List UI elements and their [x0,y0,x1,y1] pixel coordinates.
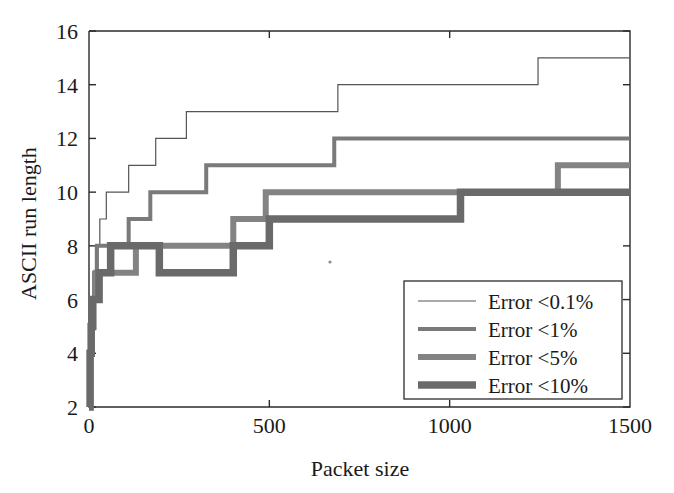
legend: Error <0.1%Error <1%Error <5%Error <10% [404,281,622,399]
x-tick-label: 1500 [608,413,652,438]
y-tick-label: 6 [67,288,78,313]
stray-speckle [328,260,331,263]
x-tick-label: 1000 [428,413,472,438]
y-tick-label: 4 [67,341,78,366]
y-tick-label: 2 [67,395,78,420]
y-tick-label: 14 [56,73,78,98]
legend-label: Error <1% [488,318,577,342]
legend-label: Error <10% [488,374,588,398]
figure-container: 246810121416 050010001500 ASCII run leng… [0,0,674,493]
x-axis-title: Packet size [311,456,409,481]
y-tick-label: 10 [56,180,78,205]
legend-label: Error <5% [488,346,577,370]
legend-label: Error <0.1% [488,290,593,314]
x-tick-label: 0 [84,413,95,438]
y-tick-label: 16 [56,19,78,44]
y-axis-title: ASCII run length [16,147,41,300]
y-tick-label: 8 [67,234,78,259]
x-tick-label: 500 [253,413,286,438]
chart-canvas: 246810121416 050010001500 ASCII run leng… [0,0,674,493]
y-tick-label: 12 [56,126,78,151]
